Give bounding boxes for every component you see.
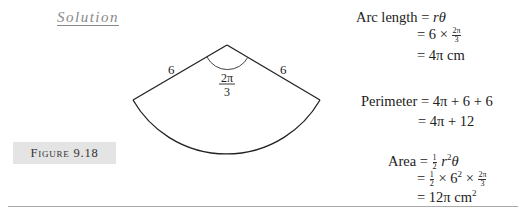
perimeter-label: Perimeter: [361, 93, 417, 109]
figure-caption: Figure 9.18: [13, 142, 116, 164]
area-line-2: = 12 × 62 × 2π3: [417, 170, 487, 188]
area-label: Area: [388, 153, 416, 169]
area-line-1: Area = 12 r2θ: [388, 153, 459, 171]
radius-label-left: 6: [168, 62, 175, 77]
sector-radius-left: [133, 45, 227, 100]
arc-length-line-3: = 4π cm: [417, 47, 465, 64]
fraction-half: 12: [433, 154, 437, 171]
arc-length-label: Arc length: [356, 9, 418, 25]
arc-length-line-2: = 6 × 2π3: [417, 26, 462, 44]
angle-denominator: 3: [224, 85, 230, 99]
arc-length-line-1: Arc length = rθ: [356, 9, 446, 26]
perimeter-line-1: Perimeter = 4π + 6 + 6: [361, 93, 493, 110]
fraction-half: 12: [430, 171, 434, 188]
bottom-rule: [8, 206, 518, 207]
fraction: 2π3: [452, 27, 460, 44]
perimeter-line-2: = 4π + 12: [418, 113, 474, 130]
radius-label-right: 6: [280, 62, 287, 77]
angle-numerator: 2π: [221, 71, 233, 85]
sector-radius-right: [227, 45, 320, 100]
area-line-3: = 12π cm2: [417, 189, 476, 206]
fraction: 2π3: [478, 171, 486, 188]
sector-arc: [133, 100, 320, 154]
angle-arc-marker: [207, 57, 248, 70]
